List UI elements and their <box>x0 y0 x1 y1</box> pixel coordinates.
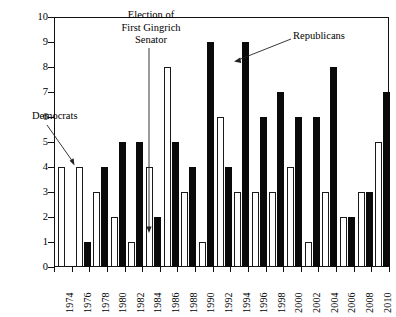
annotation-leader-lines <box>0 0 396 317</box>
arrowhead-republicans-icon <box>234 58 241 63</box>
arrowhead-democrats-icon <box>70 158 75 165</box>
leader-line-republicans-icon <box>238 39 291 60</box>
leader-line-democrats-icon <box>47 125 73 162</box>
arrowhead-gingrich-icon <box>146 227 151 234</box>
bar-chart: 10 9 8 7 6 5 4 3 2 1 0 19741976197819801… <box>0 0 396 317</box>
